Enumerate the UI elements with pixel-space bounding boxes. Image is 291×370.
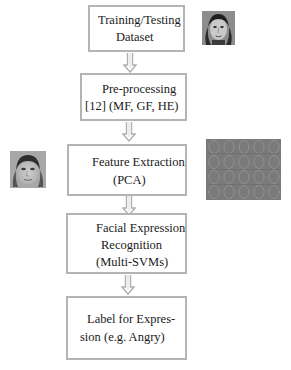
flow-arrow-1-icon	[123, 53, 137, 73]
step-dataset-line-2: Dataset	[116, 29, 153, 46]
step-recognition-line-1: Facial Expression	[96, 220, 185, 237]
eigenfaces-grid-icon	[206, 139, 281, 200]
flow-arrow-4-icon	[121, 275, 135, 295]
mean-face-image	[10, 151, 46, 188]
step-label-box: Label for Expres- sion (e.g. Angry)	[66, 296, 187, 360]
step-label-line-2: sion (e.g. Angry)	[80, 329, 165, 346]
step-recognition-box: Facial Expression Recognition (Multi-SVM…	[66, 213, 187, 274]
mean-face-icon	[10, 151, 46, 188]
eigenfaces-image	[206, 139, 281, 200]
flow-arrow-2-icon	[122, 122, 136, 142]
step-recognition-line-3: (Multi-SVMs)	[96, 254, 168, 271]
step-dataset-line-1: Training/Testing	[98, 12, 181, 29]
step-feature-extraction-line-1: Feature Extraction	[92, 154, 185, 171]
step-label-line-1: Label for Expres-	[87, 311, 175, 328]
step-preprocessing-line-2: [12] (MF, GF, HE)	[85, 98, 178, 115]
step-feature-extraction-box: Feature Extraction (PCA)	[67, 144, 187, 196]
step-recognition-line-2: Recognition	[101, 237, 162, 254]
step-dataset-box: Training/Testing Dataset	[88, 5, 185, 52]
step-preprocessing-box: Pre-processing [12] (MF, GF, HE)	[80, 73, 187, 121]
dataset-face-image	[202, 11, 235, 45]
step-feature-extraction-line-2: (PCA)	[113, 172, 146, 189]
step-preprocessing-line-1: Pre-processing	[102, 81, 176, 98]
face-photo-icon	[202, 11, 235, 45]
